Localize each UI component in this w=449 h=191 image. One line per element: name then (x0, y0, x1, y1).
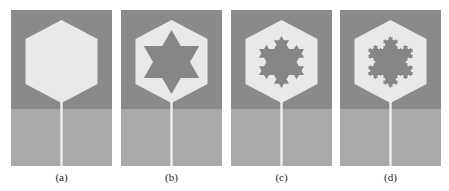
feed-line (60, 101, 62, 166)
antenna-a-drawing (11, 10, 112, 166)
antenna-d-drawing (340, 10, 441, 166)
panel-b (121, 10, 222, 166)
caption-c: (c) (231, 171, 332, 183)
panel-a (11, 10, 112, 166)
antenna-b-drawing (121, 10, 222, 166)
caption-d: (d) (340, 171, 441, 183)
feed-line (280, 101, 282, 166)
panel-d (340, 10, 441, 166)
caption-a: (a) (11, 171, 112, 183)
feed-line (389, 101, 391, 166)
feed-line (170, 101, 172, 166)
panel-c (231, 10, 332, 166)
caption-b: (b) (121, 171, 222, 183)
antenna-c-drawing (231, 10, 332, 166)
